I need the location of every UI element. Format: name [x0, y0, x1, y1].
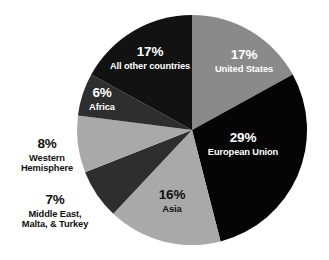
slice-name-european-union: European Union — [208, 147, 278, 157]
slice-percent-western-hemisphere: 8% — [21, 137, 73, 152]
slice-percent-united-states: 17% — [215, 48, 273, 63]
slice-percent-middle-east-malta-turkey: 7% — [22, 193, 89, 208]
slice-name-western-hemisphere-line-2: Hemisphere — [21, 163, 73, 173]
slice-percent-european-union: 29% — [208, 131, 278, 146]
slice-name-western-hemisphere-line-1: Western — [21, 153, 73, 163]
slice-label-united-states: 17% United States — [215, 48, 273, 74]
slice-name-asia: Asia — [159, 204, 185, 214]
slice-percent-asia: 16% — [159, 188, 185, 203]
slice-label-africa: 6% Africa — [89, 86, 115, 112]
slice-label-all-other-countries: 17% All other countries — [110, 45, 190, 71]
slice-label-asia: 16% Asia — [159, 188, 185, 214]
slice-label-western-hemisphere: 8% Western Hemisphere — [21, 137, 73, 173]
slice-name-all-other-countries: All other countries — [110, 61, 190, 71]
slice-percent-all-other-countries: 17% — [110, 45, 190, 60]
slice-name-middle-east-line-2: Malta, & Turkey — [22, 219, 89, 229]
pie-chart: 17% United States 29% European Union 16%… — [0, 0, 329, 260]
slice-percent-africa: 6% — [89, 86, 115, 101]
slice-label-european-union: 29% European Union — [208, 131, 278, 157]
slice-name-africa: Africa — [89, 102, 115, 112]
slice-name-middle-east-line-1: Middle East, — [22, 209, 89, 219]
slice-name-united-states: United States — [215, 64, 273, 74]
slice-label-middle-east-malta-turkey: 7% Middle East, Malta, & Turkey — [22, 193, 89, 229]
